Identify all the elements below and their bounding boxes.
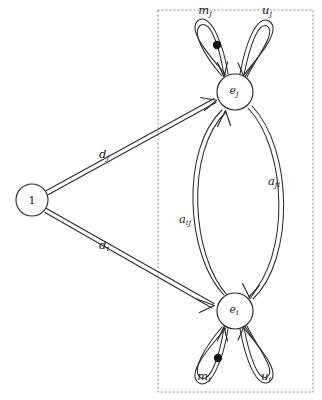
diagram-canvas: 1 ej ei dj di aij aji mj uj mi ui — [0, 0, 322, 400]
self-loop-u-j — [238, 20, 273, 77]
edge-a-ji-stroke-a — [248, 108, 279, 297]
loop-label-u-j: uj — [262, 3, 272, 18]
node-one-label: 1 — [29, 194, 36, 207]
graph-svg: 1 ej ei dj di aij aji mj uj mi ui — [0, 0, 322, 400]
edge-label-d-i: di — [99, 238, 109, 253]
node-one[interactable]: 1 — [16, 184, 48, 216]
edge-a-ji — [243, 106, 284, 299]
token-dot-m-i — [214, 354, 222, 362]
edge-label-a-ij: aij — [179, 212, 191, 227]
node-ei[interactable]: ei — [217, 293, 253, 329]
node-ej[interactable]: ej — [217, 74, 253, 110]
self-loop-u-j-outer — [240, 20, 273, 76]
edge-label-a-ji: aji — [268, 174, 280, 189]
edge-d-j-stroke-a — [47, 99, 215, 191]
self-loop-m-j — [195, 19, 228, 77]
token-dot-m-j — [213, 41, 221, 49]
edge-a-ij-stroke-b — [198, 112, 228, 296]
loop-label-m-j: mj — [198, 3, 212, 18]
dotted-region-boundary — [158, 10, 313, 392]
edge-d-j — [47, 98, 217, 195]
edge-a-ij — [193, 110, 231, 296]
edge-label-d-j: dj — [99, 147, 109, 162]
loop-label-m-i: mi — [197, 369, 211, 384]
edge-d-j-stroke-b — [49, 103, 217, 195]
